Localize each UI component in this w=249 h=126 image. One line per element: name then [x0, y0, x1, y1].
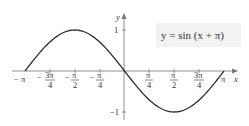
svg-text:−: − — [65, 72, 70, 82]
chart: y = sin (x + π) y x 1 −1 − π − 3π 4 − π … — [0, 0, 249, 126]
svg-text:π: π — [146, 70, 151, 80]
svg-text:4: 4 — [48, 80, 53, 90]
y-tick-label-1: 1 — [114, 25, 118, 35]
svg-text:π: π — [171, 70, 176, 80]
svg-text:4: 4 — [147, 80, 152, 90]
svg-text:π: π — [97, 70, 102, 80]
x-tick-label-neg-3pi4: − 3π 4 — [37, 70, 55, 90]
y-tick-label-neg1: −1 — [110, 107, 119, 117]
svg-text:−: − — [90, 72, 95, 82]
svg-text:2: 2 — [73, 80, 77, 90]
svg-text:4: 4 — [197, 80, 202, 90]
x-axis-label: x — [233, 74, 238, 84]
svg-text:3π: 3π — [45, 70, 54, 80]
svg-text:π: π — [72, 70, 77, 80]
x-tick-label-pi: π — [221, 74, 226, 84]
x-tick-label-neg-pi: − π — [14, 74, 26, 84]
x-tick-label-3pi4: 3π 4 — [194, 70, 204, 90]
x-tick-label-neg-pi4: − π 4 — [90, 70, 104, 90]
svg-text:2: 2 — [172, 80, 176, 90]
x-tick-label-pi4: π 4 — [145, 70, 153, 90]
x-tick-label-neg-pi2: − π 2 — [65, 70, 79, 90]
svg-text:4: 4 — [98, 80, 103, 90]
x-axis-arrow-icon — [232, 69, 238, 74]
y-axis-arrow-icon — [122, 13, 127, 19]
svg-text:3π: 3π — [194, 70, 203, 80]
y-axis-label: y — [115, 12, 120, 22]
equation-label: y = sin (x + π) — [161, 29, 224, 42]
svg-text:−: − — [37, 72, 42, 82]
x-tick-label-pi2: π 2 — [170, 70, 178, 90]
